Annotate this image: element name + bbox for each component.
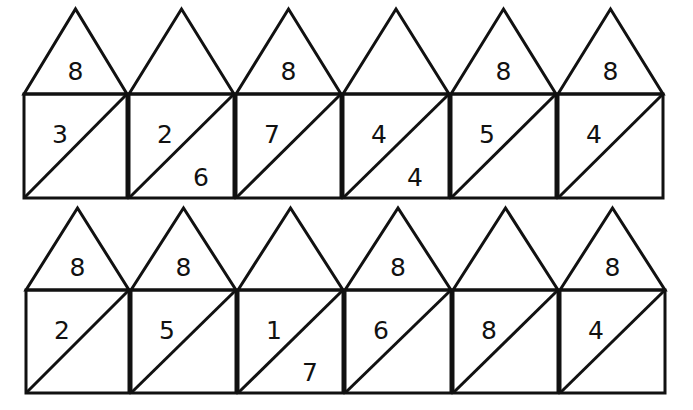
number-house: 8	[453, 208, 558, 393]
roof-number: 8	[70, 253, 86, 282]
number-house: 17	[238, 208, 343, 393]
diagonal-divider	[345, 290, 451, 393]
part-number-top-left: 7	[264, 120, 280, 149]
diagonal-divider	[451, 94, 556, 198]
house-row-1: 832687448584	[24, 9, 663, 198]
number-house: 44	[343, 9, 449, 198]
houses-layer: 83268744858482851786884	[24, 9, 665, 393]
diagonal-divider	[131, 290, 236, 393]
part-number-top-left: 2	[54, 316, 70, 345]
roof-triangle	[129, 9, 234, 94]
number-house: 26	[129, 9, 234, 198]
part-number-bottom-right: 4	[407, 163, 423, 192]
part-number-top-left: 5	[479, 120, 495, 149]
number-house: 82	[26, 208, 129, 393]
worksheet: 83268744858482851786884	[0, 0, 693, 410]
diagonal-divider	[238, 290, 343, 393]
number-house: 86	[345, 208, 451, 393]
part-number-top-left: 4	[586, 120, 602, 149]
part-number-top-left: 6	[373, 316, 389, 345]
roof-triangle	[343, 9, 449, 94]
diagonal-divider	[236, 94, 341, 198]
diagonal-divider	[26, 290, 129, 393]
number-house: 84	[560, 208, 665, 393]
roof-number: 8	[68, 57, 84, 86]
roof-number: 8	[496, 57, 512, 86]
part-number-bottom-right: 6	[193, 163, 209, 192]
roof-number: 8	[603, 57, 619, 86]
roof-number: 8	[176, 253, 192, 282]
part-number-top-left: 3	[52, 120, 68, 149]
number-house: 85	[131, 208, 236, 393]
part-number-top-left: 8	[481, 316, 497, 345]
number-house: 84	[558, 9, 663, 198]
roof-number: 8	[390, 253, 406, 282]
number-house: 87	[236, 9, 341, 198]
part-number-top-left: 5	[159, 316, 175, 345]
number-house: 85	[451, 9, 556, 198]
roof-triangle	[453, 208, 558, 290]
part-number-top-left: 4	[588, 316, 604, 345]
diagonal-divider	[343, 94, 449, 198]
roof-number: 8	[605, 253, 621, 282]
part-number-bottom-right: 7	[302, 358, 318, 387]
part-number-top-left: 1	[266, 316, 282, 345]
diagonal-divider	[24, 94, 127, 198]
diagonal-divider	[129, 94, 234, 198]
number-house: 83	[24, 9, 127, 198]
roof-number: 8	[281, 57, 297, 86]
roof-triangle	[238, 208, 343, 290]
diagonal-divider	[560, 290, 665, 393]
diagonal-divider	[453, 290, 558, 393]
part-number-top-left: 2	[157, 120, 173, 149]
house-row-2: 82851786884	[26, 208, 665, 393]
diagonal-divider	[558, 94, 663, 198]
part-number-top-left: 4	[371, 120, 387, 149]
